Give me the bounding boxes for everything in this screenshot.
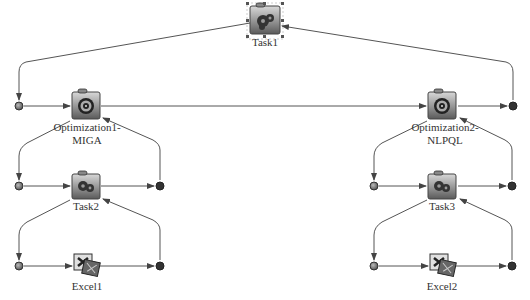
label-task1: Task1 <box>252 36 278 49</box>
label-optimization2: Optimization2- NLPQL <box>411 121 478 147</box>
target-icon <box>78 98 94 114</box>
port-end-excel2[interactable] <box>508 262 516 270</box>
label-optimization1-line2: MIGA <box>53 134 120 147</box>
port-start-excel1[interactable] <box>15 262 23 270</box>
port-end-task3[interactable] <box>508 182 516 190</box>
port-end-task2[interactable] <box>156 182 164 190</box>
port-start-excel2[interactable] <box>370 262 378 270</box>
edge-task1-to-opt-in <box>19 23 250 100</box>
port-end-excel1[interactable] <box>156 262 164 270</box>
edge-task2-to-excel1-in <box>19 200 70 260</box>
label-excel1: Excel1 <box>72 280 103 293</box>
label-optimization1: Optimization1- MIGA <box>53 121 120 147</box>
edge-task3-to-excel2-in <box>374 200 427 260</box>
label-optimization1-line1: Optimization1- <box>53 121 120 134</box>
label-optimization2-line1: Optimization2- <box>411 121 478 134</box>
edge-excel2-out-to-task3 <box>460 199 512 260</box>
label-excel2: Excel2 <box>427 280 458 293</box>
port-start-task3[interactable] <box>370 182 378 190</box>
target-icon <box>434 98 450 114</box>
label-task2: Task2 <box>73 200 99 213</box>
port-end-opt[interactable] <box>509 102 517 110</box>
node-optimization2[interactable] <box>428 89 456 119</box>
node-task3[interactable] <box>428 171 456 199</box>
label-task3: Task3 <box>429 200 455 213</box>
node-task1[interactable] <box>246 2 284 39</box>
node-task2[interactable] <box>72 171 100 199</box>
node-excel1[interactable] <box>74 254 100 277</box>
node-excel2[interactable] <box>430 254 456 277</box>
port-start-task2[interactable] <box>15 182 23 190</box>
edge-excel1-out-to-task2 <box>103 199 160 260</box>
edge-opt-out-to-task1 <box>282 26 513 100</box>
label-optimization2-line2: NLPQL <box>411 134 478 147</box>
port-start-opt[interactable] <box>15 102 23 110</box>
node-optimization1[interactable] <box>72 89 100 119</box>
